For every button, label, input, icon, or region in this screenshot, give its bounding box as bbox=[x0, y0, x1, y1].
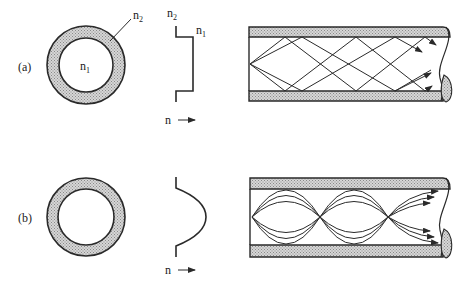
panel-label-b: (b) bbox=[18, 211, 32, 225]
panel-b: (b) n bbox=[18, 177, 452, 277]
index-profile-a: n2 n1 n bbox=[165, 6, 206, 127]
profile-label-n1: n1 bbox=[196, 23, 206, 39]
fiber-b bbox=[250, 178, 452, 258]
axis-label-n-a: n bbox=[165, 113, 171, 127]
fiber-a bbox=[249, 27, 452, 102]
panel-label-a: (a) bbox=[18, 60, 31, 74]
leader-line bbox=[110, 19, 131, 41]
fiber-diagram: (a) n1 n2 n2 n1 n bbox=[0, 0, 471, 288]
cladding-label: n2 bbox=[133, 8, 143, 24]
panel-a: (a) n1 n2 n2 n1 n bbox=[18, 6, 452, 127]
cross-section-a: n1 n2 bbox=[47, 8, 143, 104]
cross-section-b bbox=[47, 178, 125, 256]
axis-label-n-b: n bbox=[165, 263, 171, 277]
profile-label-n2: n2 bbox=[167, 6, 177, 22]
index-profile-b: n bbox=[165, 177, 206, 277]
